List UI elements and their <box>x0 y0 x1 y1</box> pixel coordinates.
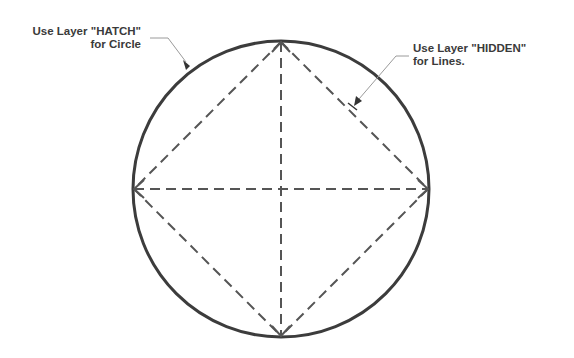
circle-leader <box>150 38 190 70</box>
diamond-bottom-right <box>281 189 428 336</box>
hidden-lines <box>134 42 428 336</box>
drawing-canvas <box>0 0 574 358</box>
leader-arrow-icon <box>183 60 190 70</box>
diamond-top-right <box>281 42 428 189</box>
diamond-top-left <box>134 42 281 189</box>
diamond-bottom-left <box>134 189 281 336</box>
